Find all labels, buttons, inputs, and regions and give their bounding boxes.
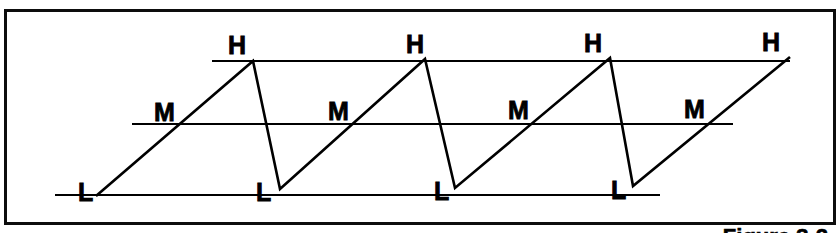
waveform-group — [96, 57, 790, 196]
figure-container: LMHLMHLMHLMH Figure 3-2 — [0, 0, 840, 233]
label-m-0: M — [154, 100, 175, 125]
figure-caption: Figure 3-2 — [723, 224, 828, 233]
label-m-3: M — [684, 97, 705, 122]
label-h-0: H — [228, 33, 246, 58]
label-m-1: M — [328, 99, 349, 124]
label-l-2: L — [434, 179, 449, 204]
label-h-3: H — [762, 30, 780, 55]
level-reference-lines — [55, 61, 790, 195]
label-m-2: M — [508, 98, 529, 123]
label-l-3: L — [611, 178, 626, 203]
label-h-2: H — [584, 31, 602, 56]
sawtooth-waveform-line — [96, 57, 790, 196]
label-l-1: L — [256, 180, 271, 205]
label-l-0: L — [78, 180, 93, 205]
label-h-1: H — [406, 32, 424, 57]
